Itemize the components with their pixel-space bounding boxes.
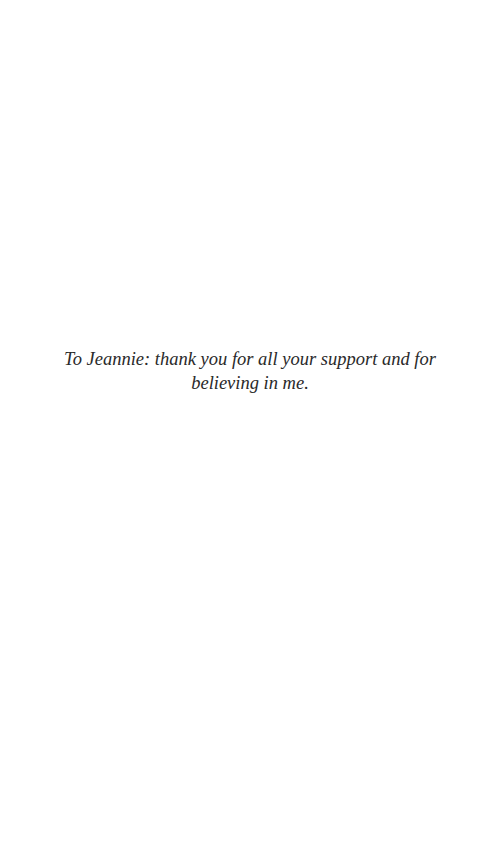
dedication-text: To Jeannie: thank you for all your suppo… — [30, 347, 470, 395]
document-page: To Jeannie: thank you for all your suppo… — [0, 0, 500, 859]
